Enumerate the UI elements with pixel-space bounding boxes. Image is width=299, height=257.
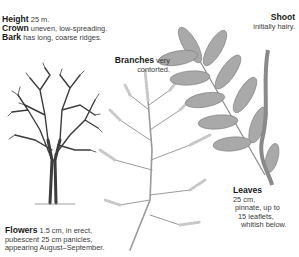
tree-illustration: [8, 63, 102, 204]
caption-branches: Branches very contorted.: [70, 56, 170, 74]
text-flowers: 1.5 cm, in erect,: [37, 226, 92, 235]
caption-flowers: Flowers 1.5 cm, in erect, pubescent 25 c…: [5, 226, 115, 253]
term-leaves: Leaves: [233, 185, 262, 195]
term-shoot: Shoot: [271, 12, 295, 22]
caption-leaves: Leaves 25 cm, pinnate, up to 15 leaflets…: [233, 186, 299, 230]
caption-bark: Bark has long, coarse ridges.: [2, 33, 102, 43]
caption-shoot: Shoot initially hairy.: [220, 13, 295, 31]
text-height: 25 m.: [29, 15, 50, 24]
text-leaves-4: whitish below.: [233, 221, 299, 230]
text-shoot: initially hairy.: [220, 23, 295, 32]
term-bark: Bark: [2, 32, 21, 42]
pinnate-leaf-illustration: [157, 24, 282, 185]
text-branches-2: contorted.: [70, 66, 170, 75]
term-flowers: Flowers: [5, 225, 37, 235]
text-branches: very: [154, 56, 170, 65]
text-flowers-3: appearing August–September.: [5, 244, 115, 253]
text-bark: has long, coarse ridges.: [21, 33, 102, 42]
text-crown: uneven, low-spreading.: [29, 24, 107, 33]
term-branches: Branches: [115, 55, 154, 65]
